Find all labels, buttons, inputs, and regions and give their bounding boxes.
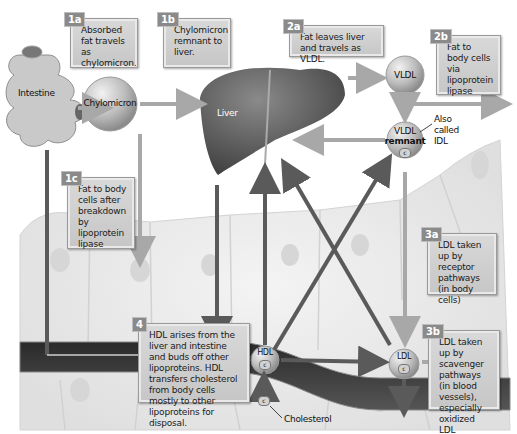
callout-text-1b: Chylomicron remnant to liver. (174, 25, 228, 57)
lipoprotein-diagram: Intestine Chylomicron Liver VLDL VLDL re… (0, 0, 517, 434)
callout-2b: 2b Fat to body cells via lipoprotein lip… (436, 35, 501, 95)
cholesterol-tag-vldl-remnant: c (399, 148, 411, 158)
callout-text-1a: Absorbed fat travels as chylomicron. (81, 25, 136, 68)
hdl-label-2: HDL (253, 348, 277, 357)
liver-illustration (200, 68, 345, 175)
callout-3a: 3a LDL taken up by receptor pathways (in… (427, 233, 497, 295)
callout-2a: 2a Fat leaves liver and travels as VLDL. (289, 25, 384, 57)
callout-badge-2b: 2b (430, 29, 452, 44)
callout-text-2b: Fat to body cells via lipoprotein lipase (447, 42, 493, 96)
callout-badge-3a: 3a (421, 227, 442, 242)
cholesterol-label: Cholesterol (284, 414, 332, 424)
callout-1c: 1c Fat to body cells after breakdown by … (67, 177, 135, 249)
vldl-remnant-label-line2: remnant (384, 136, 426, 146)
callout-text-1c: Fat to body cells after breakdown by lip… (78, 184, 126, 249)
cholesterol-tag-hdl: c (259, 360, 271, 370)
vldl-label: VLDL (388, 70, 422, 80)
also-called-idl-label: Also called IDL (434, 114, 470, 147)
callout-4: 4 HDL arises from the liver and intestin… (138, 323, 250, 403)
vldl-remnant-label-line1: VLDL (388, 126, 422, 136)
cholesterol-tag-ldl: c (398, 364, 410, 374)
ldl-label: LDL (392, 352, 416, 361)
callout-badge-1a: 1a (64, 12, 85, 27)
callout-1b: 1b Chylomicron remnant to liver. (163, 18, 231, 68)
callout-badge-1c: 1c (61, 171, 82, 186)
chylomicron-label: Chylomicron (83, 98, 137, 108)
callout-badge-1b: 1b (157, 12, 179, 27)
callout-badge-4: 4 (132, 317, 147, 332)
callout-badge-2a: 2a (283, 19, 304, 34)
intestine-label: Intestine (18, 88, 55, 98)
liver-label: Liver (217, 108, 238, 118)
callout-1a: 1a Absorbed fat travels as chylomicron. (70, 18, 138, 68)
callout-badge-3b: 3b (422, 324, 444, 339)
cholesterol-tag-free: c (258, 396, 270, 406)
callout-3b: 3b LDL taken up by scavenger pathways (i… (428, 330, 500, 410)
